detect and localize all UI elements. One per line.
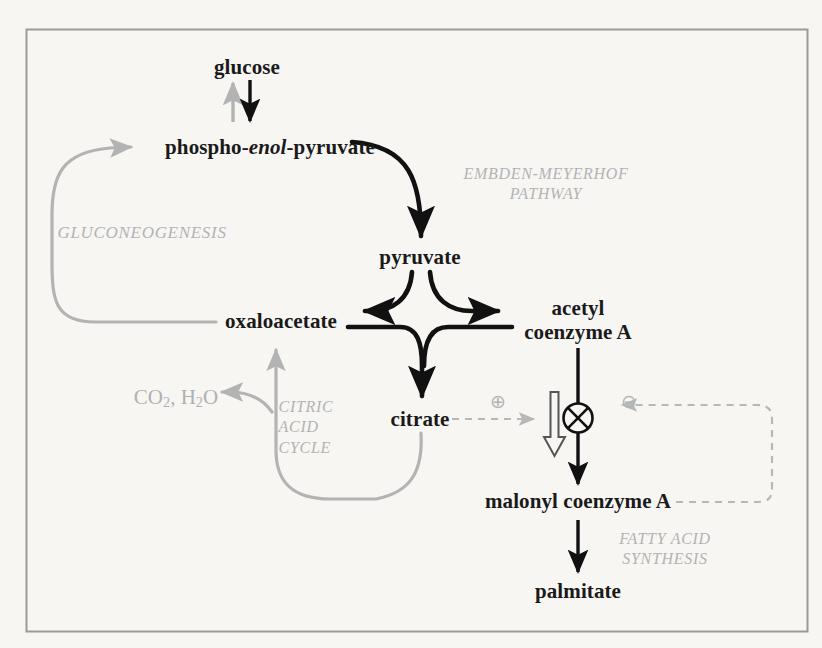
- node-pyruvate: pyruvate: [379, 246, 460, 270]
- pep-prefix: phospho-: [165, 135, 249, 159]
- arrow-acetylcoa-to-citrate: [424, 327, 512, 366]
- hollow-flux-arrow: [544, 392, 565, 456]
- arrow-cycle-to-co2-h2o: [222, 392, 272, 412]
- node-citrate: citrate: [391, 408, 450, 432]
- arrow-pyruvate-to-oxaloacetate: [365, 272, 412, 311]
- activation-plus-icon: ⊕: [490, 392, 506, 411]
- pep-suffix: -pyruvate: [287, 135, 375, 159]
- h2o-hydrogen: H: [181, 385, 196, 409]
- pep-italic-enol: enol: [249, 135, 287, 159]
- arrow-malonylcoa-inhibits-node: [622, 405, 772, 502]
- byproduct-co2-h2o: CO2, H2O: [134, 385, 218, 411]
- node-acetyl-coenzyme-a: acetylcoenzyme A: [524, 297, 632, 344]
- co2-formula: CO2: [134, 385, 170, 409]
- byproduct-separator: ,: [170, 385, 181, 409]
- acetyl-coa-line1: acetyl: [551, 296, 604, 320]
- label-citric-acid-cycle: CITRIC ACID CYCLE: [279, 397, 334, 458]
- node-palmitate: palmitate: [535, 580, 621, 604]
- node-oxaloacetate: oxaloacetate: [225, 310, 337, 334]
- co2-element: CO: [134, 385, 163, 409]
- pathway-diagram: glucose phospho-enol-pyruvate pyruvate o…: [0, 0, 822, 648]
- node-phospho-enol-pyruvate: phospho-enol-pyruvate: [165, 136, 375, 160]
- inhibition-minus-icon: ⊖: [621, 392, 637, 411]
- node-malonyl-coenzyme-a: malonyl coenzyme A: [485, 490, 671, 514]
- h2o-formula: H2O: [181, 385, 218, 409]
- label-gluconeogenesis: GLUCONEOGENESIS: [57, 222, 226, 244]
- acetyl-coa-line2: coenzyme A: [524, 320, 632, 344]
- h2o-oxygen: O: [203, 385, 218, 409]
- node-glucose: glucose: [214, 56, 280, 80]
- arrow-pyruvate-to-acetylcoa: [430, 272, 498, 311]
- arrow-oxaloacetate-to-citrate: [348, 327, 422, 396]
- label-fatty-acid-synthesis: FATTY ACID SYNTHESIS: [619, 529, 711, 570]
- label-embden-meyerhof-pathway: EMBDEN-MEYERHOF PATHWAY: [463, 164, 628, 205]
